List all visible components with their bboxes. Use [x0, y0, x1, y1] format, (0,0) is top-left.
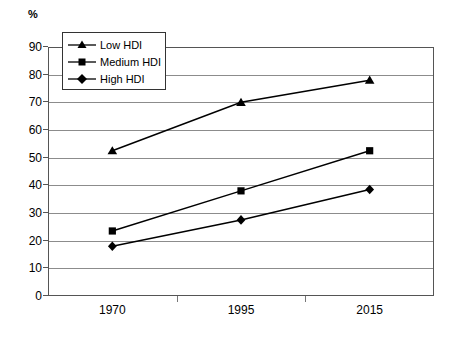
- square-data-point: [366, 147, 373, 154]
- legend-item-medium-hdi: Medium HDI: [63, 53, 165, 70]
- square-data-point: [109, 227, 116, 234]
- triangle-data-point: [365, 76, 375, 84]
- legend-label-low-hdi: Low HDI: [97, 39, 142, 51]
- legend-item-high-hdi: High HDI: [63, 70, 165, 87]
- legend-item-low-hdi: Low HDI: [63, 36, 165, 53]
- square-data-point: [237, 187, 244, 194]
- diamond-data-point: [108, 241, 117, 251]
- line-chart: % 9080706050403020100 197019952015 Low H…: [0, 0, 452, 337]
- triangle-marker-icon: [67, 38, 97, 52]
- diamond-marker-icon: [67, 72, 97, 86]
- square-marker-icon: [67, 55, 97, 69]
- diamond-data-point: [365, 185, 374, 195]
- diamond-data-point: [237, 215, 246, 225]
- chart-legend: Low HDI Medium HDI High HDI: [62, 32, 166, 90]
- legend-label-high-hdi: High HDI: [97, 73, 145, 85]
- series-high-hdi: [108, 185, 374, 251]
- legend-label-medium-hdi: Medium HDI: [97, 56, 161, 68]
